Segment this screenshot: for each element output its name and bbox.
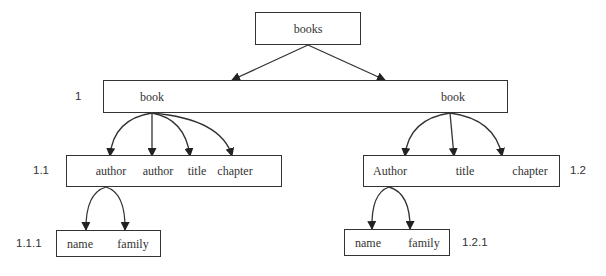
element-label-book: book <box>140 90 164 105</box>
arrow-edge <box>450 113 454 156</box>
element-label-name: name <box>355 236 381 251</box>
element-label-author: Author <box>373 164 407 179</box>
section-number-label: 1.1.1 <box>16 237 42 249</box>
element-label-family: family <box>408 236 439 251</box>
arrow-edge <box>152 113 232 156</box>
element-label-author: author <box>143 164 174 179</box>
arrow-edge <box>106 187 125 230</box>
element-label-title: title <box>456 164 475 179</box>
section-number-label: 1.1 <box>33 164 49 176</box>
arrow-edge <box>110 113 152 156</box>
element-label-title: title <box>188 164 207 179</box>
element-label-books: books <box>294 22 323 37</box>
arrow-edge <box>372 187 389 229</box>
section-number-label: 1.2 <box>570 164 586 176</box>
section-number-label: 1.2.1 <box>462 236 488 248</box>
xml-tree-diagram: booksbookbookauthorauthortitlechapterAut… <box>0 0 606 276</box>
arrow-edge <box>405 113 450 156</box>
arrow-edge <box>450 113 502 156</box>
arrow-edge <box>389 187 410 229</box>
arrow-edge <box>152 113 190 156</box>
section-number-label: 1 <box>75 90 81 102</box>
element-label-chapter: chapter <box>217 164 252 179</box>
arrow-edge <box>232 45 308 80</box>
arrow-edge <box>86 187 106 230</box>
element-label-name: name <box>67 237 93 252</box>
element-label-family: family <box>117 237 148 252</box>
element-label-author: author <box>96 164 127 179</box>
element-label-chapter: chapter <box>512 164 547 179</box>
arrow-edge <box>308 45 385 80</box>
element-label-book: book <box>441 90 465 105</box>
